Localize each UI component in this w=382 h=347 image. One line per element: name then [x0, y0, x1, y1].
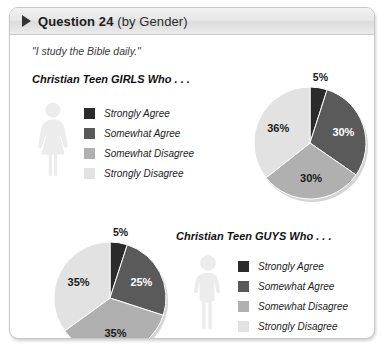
legend-swatch-somewhat-agree	[238, 281, 249, 292]
legend-swatch-strongly-agree	[84, 108, 95, 119]
pie-slice-label: 30%	[332, 126, 354, 138]
female-figure-icon	[32, 101, 74, 179]
pie-slice-label: 35%	[104, 327, 126, 339]
legend-label: Somewhat Disagree	[104, 148, 194, 159]
guys-legend: Strongly Agree Somewhat Agree Somewhat D…	[238, 257, 348, 337]
page-root: Question 24 (by Gender) "I study the Bib…	[0, 0, 382, 347]
question-label: Question 24	[38, 14, 114, 29]
legend-item: Somewhat Disagree	[84, 144, 194, 163]
pie-slice-label: 5%	[113, 226, 129, 238]
pie-slice-label: 30%	[300, 172, 322, 184]
card-header: Question 24 (by Gender)	[10, 8, 374, 35]
legend-swatch-strongly-disagree	[84, 168, 95, 179]
legend-item: Somewhat Agree	[84, 124, 194, 143]
legend-label: Somewhat Agree	[258, 281, 334, 292]
legend-item: Somewhat Agree	[238, 277, 348, 296]
legend-swatch-somewhat-disagree	[238, 301, 249, 312]
guys-section-title: Christian Teen GUYS Who . . .	[176, 230, 331, 242]
page-title: Question 24 (by Gender)	[38, 14, 188, 29]
girls-section-title: Christian Teen GIRLS Who . . .	[32, 73, 190, 85]
legend-label: Somewhat Disagree	[258, 301, 348, 312]
legend-swatch-somewhat-agree	[84, 128, 95, 139]
pie-slice-label: 36%	[267, 122, 289, 134]
legend-label: Somewhat Agree	[104, 128, 180, 139]
legend-item: Strongly Agree	[238, 257, 348, 276]
pie-slice-label: 25%	[130, 276, 152, 288]
legend-swatch-somewhat-disagree	[84, 148, 95, 159]
legend-item: Somewhat Disagree	[238, 297, 348, 316]
question-subtitle: (by Gender)	[117, 14, 187, 29]
girls-legend: Strongly Agree Somewhat Agree Somewhat D…	[84, 104, 194, 184]
question-quote: "I study the Bible daily."	[32, 45, 141, 57]
pie-slice-label: 5%	[313, 71, 329, 83]
legend-label: Strongly Disagree	[258, 321, 337, 332]
legend-item: Strongly Disagree	[238, 317, 348, 336]
male-figure-icon	[187, 254, 229, 332]
question-card: Question 24 (by Gender) "I study the Bib…	[9, 7, 375, 339]
guys-pie-chart: 5%25%35%35%	[38, 226, 182, 339]
legend-item: Strongly Agree	[84, 104, 194, 123]
legend-label: Strongly Agree	[258, 261, 324, 272]
triangle-right-icon	[22, 15, 31, 27]
pie-slice-label: 35%	[68, 276, 90, 288]
legend-label: Strongly Disagree	[104, 168, 183, 179]
legend-swatch-strongly-disagree	[238, 321, 249, 332]
legend-label: Strongly Agree	[104, 108, 170, 119]
girls-pie-chart: 5%30%30%36%	[238, 71, 375, 215]
legend-swatch-strongly-agree	[238, 261, 249, 272]
legend-item: Strongly Disagree	[84, 164, 194, 183]
